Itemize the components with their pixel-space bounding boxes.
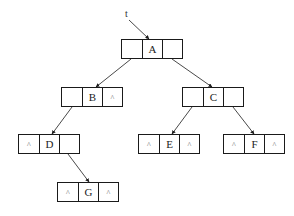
- node-data: E: [159, 135, 179, 153]
- binary-tree-diagram: t A B ^ C ^ D ^ E ^ ^ F ^ ^ G ^: [0, 0, 294, 216]
- tree-node-d: ^ D: [18, 134, 80, 154]
- tree-node-e: ^ E ^: [138, 134, 200, 154]
- tree-node-c: C: [182, 87, 244, 107]
- edge-a-to-b-arrow-icon: [96, 59, 131, 87]
- edge-b-to-d-arrow-icon: [52, 107, 72, 134]
- node-data: F: [244, 135, 264, 153]
- right-child-pointer: [59, 135, 79, 153]
- right-child-pointer: ^: [98, 183, 118, 201]
- left-child-pointer: [122, 40, 142, 58]
- left-child-pointer: [183, 88, 203, 106]
- left-child-pointer: ^: [58, 183, 78, 201]
- root-pointer-label: t: [125, 8, 128, 19]
- node-data: A: [142, 40, 162, 58]
- node-data: C: [203, 88, 223, 106]
- node-data: G: [78, 183, 98, 201]
- edge-t-to-a-arrow-icon: [129, 20, 149, 39]
- right-child-pointer: [223, 88, 243, 106]
- node-data: D: [39, 135, 59, 153]
- right-child-pointer: [162, 40, 182, 58]
- left-child-pointer: ^: [139, 135, 159, 153]
- edges-layer: [0, 0, 294, 216]
- node-data: B: [82, 88, 102, 106]
- right-child-pointer: ^: [179, 135, 199, 153]
- left-child-pointer: ^: [19, 135, 39, 153]
- right-child-pointer: ^: [102, 88, 122, 106]
- edge-c-to-f-arrow-icon: [233, 107, 254, 134]
- tree-node-g: ^ G ^: [57, 182, 119, 202]
- tree-node-f: ^ F ^: [223, 134, 285, 154]
- tree-node-b: B ^: [61, 87, 123, 107]
- edge-c-to-e-arrow-icon: [172, 107, 192, 134]
- left-child-pointer: ^: [224, 135, 244, 153]
- left-child-pointer: [62, 88, 82, 106]
- edge-a-to-c-arrow-icon: [172, 59, 212, 87]
- tree-node-a: A: [121, 39, 183, 59]
- edge-d-to-g-arrow-icon: [68, 154, 89, 182]
- right-child-pointer: ^: [264, 135, 284, 153]
